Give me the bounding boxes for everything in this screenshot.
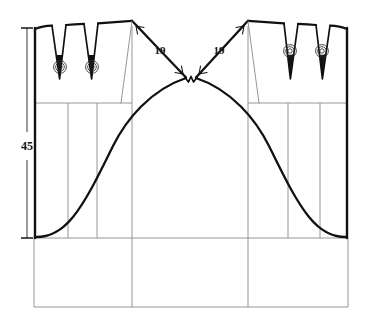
left-panel-taper-guide (121, 21, 132, 103)
darts-left-group (52, 23, 98, 79)
right-waist-edge-segment-2 (298, 24, 316, 25)
dimension-label-45: 45 (21, 139, 33, 153)
right-panel-taper-guide (248, 21, 259, 103)
left-waist-edge-segment-2 (66, 24, 84, 25)
left-waist-edge-segment-1 (35, 26, 52, 29)
darts-right-group (284, 23, 330, 79)
construction-grid (34, 26, 348, 307)
dart-marker-right-1-icon (284, 45, 297, 58)
dimension-label-19-left: 19 (155, 44, 167, 56)
right-waist-edge-segment-3 (248, 21, 284, 24)
left-hem-curve (35, 78, 186, 237)
dart-marker-right-2-icon (316, 45, 329, 58)
pattern-svg-canvas: 45 19 19 (0, 0, 377, 321)
dimension-label-19-right: 19 (214, 44, 226, 56)
dimension-height-45 (21, 28, 33, 238)
left-waist-edge-segment-3 (98, 21, 132, 24)
right-hem-curve (196, 78, 347, 237)
right-waist-edge-segment-1 (330, 26, 347, 29)
pattern-drawing-root: 45 19 19 (0, 0, 377, 321)
